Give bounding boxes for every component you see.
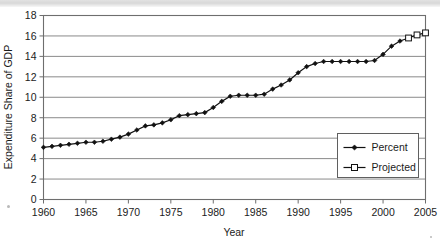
x-axis: 1960196519701975198019851990199520002005 (32, 200, 438, 218)
y-tick-label: 2 (31, 173, 37, 185)
data-point (414, 32, 420, 38)
data-point (152, 123, 157, 128)
data-point (109, 137, 114, 142)
x-tick-label: 2000 (371, 206, 395, 218)
legend-label: Percent (372, 141, 408, 153)
data-series-layer (41, 30, 428, 150)
y-tick-label: 10 (25, 91, 37, 103)
legend-marker-open-square (352, 165, 358, 171)
x-tick-label: 1970 (117, 206, 141, 218)
y-tick-label: 18 (25, 9, 37, 21)
data-point (135, 128, 140, 133)
data-point (330, 59, 335, 64)
data-point (186, 112, 191, 117)
data-point (58, 143, 63, 148)
data-point (92, 140, 97, 145)
x-tick-label: 1980 (202, 206, 226, 218)
x-axis-title: Year (223, 226, 245, 238)
y-tick-label: 8 (31, 112, 37, 124)
line-chart: 024681012141618 196019651970197519801985… (0, 0, 440, 244)
data-point (143, 124, 148, 129)
data-point (50, 144, 55, 149)
data-point (423, 30, 429, 36)
series-line-projected (400, 33, 425, 41)
y-tick-label: 12 (25, 71, 37, 83)
data-point (75, 141, 80, 146)
data-point (194, 111, 199, 116)
x-tick-label: 1990 (286, 206, 310, 218)
data-point (355, 59, 360, 64)
legend-label: Projected (372, 161, 417, 173)
data-point (41, 145, 46, 150)
x-tick-label: 1960 (32, 206, 56, 218)
y-tick-label: 6 (31, 132, 37, 144)
data-point (313, 61, 318, 66)
data-point (118, 135, 123, 140)
x-tick-label: 1985 (244, 206, 268, 218)
x-tick-label: 2005 (414, 206, 438, 218)
y-tick-label: 16 (25, 30, 37, 42)
chart-legend: PercentProjected (338, 134, 419, 178)
x-tick-label: 1995 (329, 206, 353, 218)
data-point (347, 59, 352, 64)
data-point (338, 59, 343, 64)
x-tick-label: 1975 (159, 206, 183, 218)
y-axis: 024681012141618 (25, 9, 44, 205)
data-point (67, 142, 72, 147)
data-point (126, 132, 131, 137)
chart-figure: 024681012141618 196019651970197519801985… (0, 0, 440, 244)
data-point (321, 59, 326, 64)
x-tick-label: 1965 (74, 206, 98, 218)
y-tick-label: 4 (31, 152, 37, 164)
data-point (101, 139, 106, 144)
y-axis-title: Expenditure Share of GDP (2, 45, 14, 169)
data-point (364, 59, 369, 64)
data-point (160, 121, 165, 126)
y-tick-label: 0 (31, 193, 37, 205)
data-point (84, 140, 89, 145)
series-line-percent (44, 41, 401, 147)
y-tick-label: 14 (25, 50, 37, 62)
data-point (406, 35, 412, 41)
